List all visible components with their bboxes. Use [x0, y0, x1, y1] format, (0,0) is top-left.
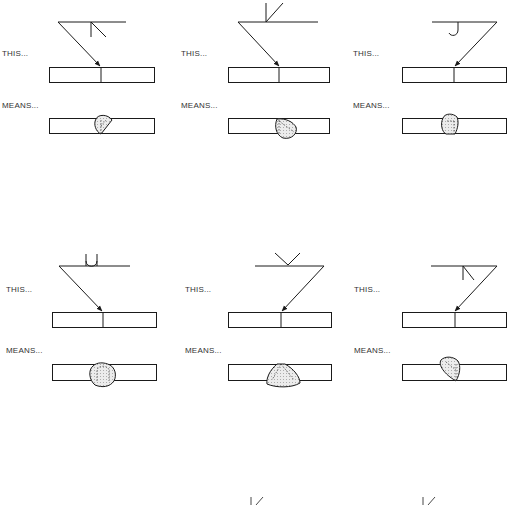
plate-joint — [229, 313, 332, 328]
arrow-line — [282, 266, 324, 311]
bevel-symbol-icon — [463, 266, 474, 280]
partial-symbol-bottom-center — [251, 497, 263, 505]
panel-u-groove-other-side — [53, 254, 157, 387]
panel-bevel-arrow-side — [403, 266, 507, 381]
panel-v-groove-other-side — [229, 253, 332, 387]
bevel-symbol-icon — [266, 3, 283, 22]
weld-bead — [440, 357, 460, 381]
fillet-symbol-icon — [91, 22, 106, 37]
weld-bead — [276, 119, 297, 139]
arrow-line — [455, 266, 497, 311]
weld-bead — [95, 115, 112, 134]
weld-symbols-diagram — [0, 0, 513, 505]
v-groove-symbol-icon — [275, 253, 300, 265]
arrow-line — [59, 266, 102, 311]
arrow-line — [455, 22, 497, 66]
partial-symbol-bottom-right — [423, 497, 435, 505]
panel-bevel-other-side — [229, 3, 330, 138]
plate-joint — [50, 68, 155, 83]
arrow-line — [58, 22, 100, 66]
weld-bead — [442, 114, 458, 134]
arrow-line — [238, 22, 279, 66]
plate-joint — [53, 313, 157, 328]
panel-j-groove-arrow-side — [403, 22, 507, 134]
j-groove-symbol-icon — [449, 22, 458, 35]
panel-fillet-arrow-side — [50, 22, 155, 134]
u-groove-symbol-icon — [86, 254, 97, 266]
